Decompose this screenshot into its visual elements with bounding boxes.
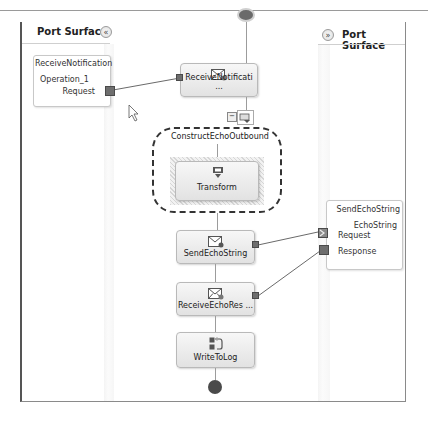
flow-line <box>215 368 216 380</box>
receive-echo-response-shape[interactable]: ReceiveEchoRes ... <box>176 282 255 316</box>
receive-echo-response-port-handle[interactable] <box>252 292 259 299</box>
port-message-response: Response <box>338 247 376 256</box>
transform-shape[interactable]: Transform <box>175 161 259 201</box>
write-to-log-shape[interactable]: WriteToLog <box>176 332 255 368</box>
transform-icon <box>212 167 224 179</box>
shape-label: WriteToLog <box>177 353 254 362</box>
construct-message-icon <box>238 111 253 124</box>
construct-expander-button[interactable]: − <box>227 112 237 122</box>
flow-line <box>215 264 216 282</box>
flow-line <box>217 213 218 230</box>
construct-label: ConstructEchoOutbound <box>171 132 269 141</box>
expression-icon <box>209 337 223 351</box>
response-port-handle[interactable] <box>319 245 329 255</box>
send-echo-string-port-handle[interactable] <box>252 241 259 248</box>
port-operation: EchoString <box>354 221 397 230</box>
shape-label: ReceiveNotificati ... <box>181 73 257 91</box>
send-arrow-icon <box>319 229 327 237</box>
shape-label: SendEchoString <box>177 249 254 258</box>
flow-line <box>215 316 216 332</box>
end-shape[interactable] <box>208 380 222 394</box>
receive-notification-port-handle[interactable] <box>176 74 183 81</box>
flow-line <box>246 97 247 110</box>
port-name: SendEchoString <box>337 205 400 214</box>
receive-envelope-icon <box>208 288 224 300</box>
port-message-request: Request <box>338 231 371 240</box>
send-envelope-icon <box>208 236 224 248</box>
construct-message-shape[interactable] <box>237 110 254 125</box>
receive-notification-shape[interactable]: ReceiveNotificati ... <box>180 63 258 97</box>
send-echo-string-shape[interactable]: SendEchoString <box>176 230 255 264</box>
shape-label: Transform <box>176 183 258 192</box>
send-echo-string-port[interactable]: SendEchoString EchoString Request Respon… <box>326 200 403 270</box>
request-port-handle[interactable] <box>318 228 328 238</box>
shape-label: ReceiveEchoRes ... <box>177 301 254 310</box>
